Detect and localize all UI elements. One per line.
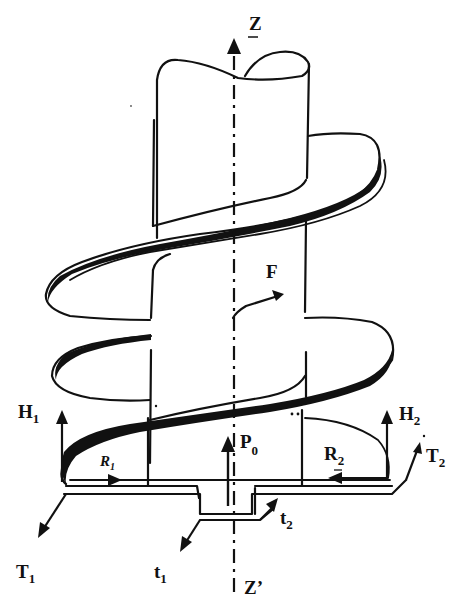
T1-arrowhead-icon bbox=[38, 522, 50, 538]
reaction-t1: t1 bbox=[154, 520, 200, 586]
H2-label: H bbox=[399, 403, 414, 424]
reaction-T1: T1 bbox=[16, 494, 66, 586]
reaction-R1: R1 bbox=[70, 453, 122, 486]
reaction-R2: R2 bbox=[324, 443, 386, 484]
T2-label: T bbox=[426, 445, 439, 466]
svg-text:t1: t1 bbox=[154, 561, 167, 586]
force-F: F bbox=[233, 261, 284, 318]
T2-arrowhead-icon bbox=[413, 442, 422, 454]
helix-flight-upper bbox=[46, 133, 386, 320]
axis-bottom-label: Z’ bbox=[244, 577, 263, 598]
svg-text:t2: t2 bbox=[280, 507, 293, 532]
R1-arrowhead-icon bbox=[108, 474, 122, 486]
svg-text:H1: H1 bbox=[18, 401, 39, 426]
axis-arrowhead-icon bbox=[227, 38, 241, 54]
t2-subscript: 2 bbox=[286, 517, 293, 532]
svg-text:R1: R1 bbox=[99, 453, 115, 472]
T2-subscript: 2 bbox=[439, 455, 446, 470]
R2-label: R bbox=[324, 443, 338, 464]
reaction-T2: T2 bbox=[406, 435, 445, 480]
P0-subscript: 0 bbox=[252, 443, 259, 458]
H2-arrowhead-icon bbox=[381, 410, 393, 424]
helical-screw-diagram: Z Z’ F P0 H1 H2 R1 R2 bbox=[0, 0, 456, 607]
H1-arrowhead-icon bbox=[56, 410, 68, 424]
R1-label: R bbox=[99, 453, 110, 469]
axis-top-label: Z bbox=[249, 13, 262, 34]
t2-arrowhead-icon bbox=[266, 498, 278, 512]
H1-label: H bbox=[18, 401, 33, 422]
T1-label: T bbox=[16, 561, 29, 582]
H2-subscript: 2 bbox=[414, 413, 421, 428]
force-F-arrowhead-icon bbox=[272, 290, 284, 301]
R2-subscript: 2 bbox=[338, 453, 345, 468]
reaction-H2: H2 bbox=[381, 403, 420, 480]
reaction-t2: t2 bbox=[260, 498, 293, 532]
svg-text:H2: H2 bbox=[399, 403, 420, 428]
svg-text:R2: R2 bbox=[324, 443, 344, 468]
reaction-H1: H1 bbox=[18, 401, 68, 482]
T1-subscript: 1 bbox=[29, 571, 36, 586]
svg-text:T2: T2 bbox=[426, 445, 445, 470]
H1-subscript: 1 bbox=[33, 411, 40, 426]
R2-arrowhead-icon bbox=[328, 472, 342, 484]
force-F-label: F bbox=[266, 261, 278, 282]
svg-text:T1: T1 bbox=[16, 561, 35, 586]
svg-text:P0: P0 bbox=[240, 431, 258, 458]
R1-subscript: 1 bbox=[110, 461, 115, 472]
t1-subscript: 1 bbox=[160, 571, 167, 586]
P0-label: P bbox=[240, 431, 252, 452]
t1-arrowhead-icon bbox=[180, 536, 192, 552]
